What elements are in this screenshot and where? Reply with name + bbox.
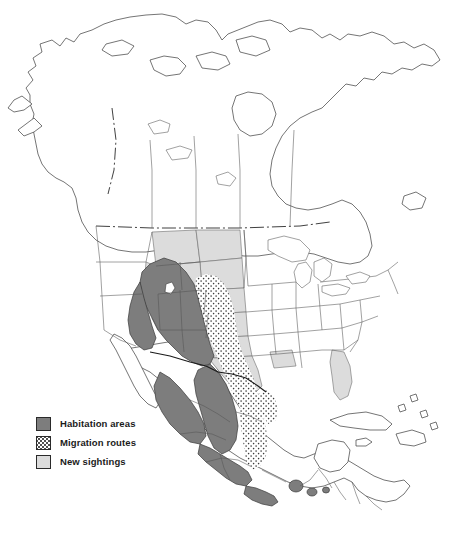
border-wv-va — [342, 316, 378, 328]
border-oh-wv-ga — [340, 304, 344, 350]
hispaniola — [396, 430, 426, 446]
habitation-patch-oaxaca-west — [289, 480, 303, 492]
alaska-peninsula — [8, 96, 32, 112]
legend-item-sightings: New sightings — [36, 452, 186, 471]
lake-ontario — [346, 272, 370, 284]
border-il-in-oh — [296, 304, 340, 308]
border-il-ms — [296, 308, 302, 368]
bahamas-island-a — [398, 404, 406, 412]
border-ny-ne — [388, 270, 398, 294]
border-ne-ia — [246, 308, 296, 312]
border-ny-north — [376, 262, 398, 276]
legend-label-migration: Migration routes — [60, 438, 136, 448]
lake-michigan — [294, 262, 312, 288]
bahamas-island-b — [410, 394, 418, 402]
sighting-area-north-dakota — [196, 230, 242, 262]
border-honduras — [334, 482, 346, 500]
bahamas-island-d — [430, 422, 438, 430]
legend-label-sightings: New sightings — [60, 457, 126, 467]
border-in-oh — [318, 284, 322, 330]
border-ks-mo — [248, 332, 298, 336]
distribution-map-figure: Habitation areas Migration routes New si… — [0, 0, 453, 534]
map-legend: Habitation areas Migration routes New si… — [36, 414, 186, 471]
legend-swatch-migration-icon — [36, 436, 51, 450]
habitation-patch-oaxaca-east — [307, 488, 317, 496]
habitation-patch-chiapas — [323, 487, 330, 493]
border-ia-mo-ar — [272, 310, 276, 354]
legend-swatch-habitation-icon — [36, 417, 51, 431]
legend-item-habitation: Habitation areas — [36, 414, 186, 433]
legend-swatch-sightings-icon — [36, 455, 51, 469]
border-ky-tn — [298, 328, 342, 332]
lake-erie — [322, 284, 350, 296]
lake-huron — [314, 258, 332, 282]
habitation-area-guerrero — [244, 486, 278, 506]
legend-item-migration: Migration routes — [36, 433, 186, 452]
cuba — [330, 412, 392, 430]
north-america-mainland-outline — [26, 14, 440, 264]
legend-label-habitation: Habitation areas — [60, 419, 136, 429]
newfoundland — [402, 192, 426, 210]
border-ga-sc — [344, 340, 358, 350]
sighting-area-florida — [330, 350, 352, 400]
bahamas-island-c — [420, 410, 428, 418]
jamaica — [356, 438, 372, 446]
